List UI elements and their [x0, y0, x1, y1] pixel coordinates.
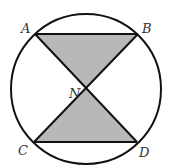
label-a: A: [20, 21, 30, 36]
label-c: C: [18, 143, 28, 158]
geometry-diagram: A B C D N: [0, 0, 186, 168]
label-d: D: [138, 145, 150, 160]
shaded-triangle-cdn: [34, 89, 137, 142]
label-b: B: [141, 21, 152, 36]
shaded-triangle-abn: [35, 34, 138, 89]
label-n: N: [68, 86, 81, 101]
